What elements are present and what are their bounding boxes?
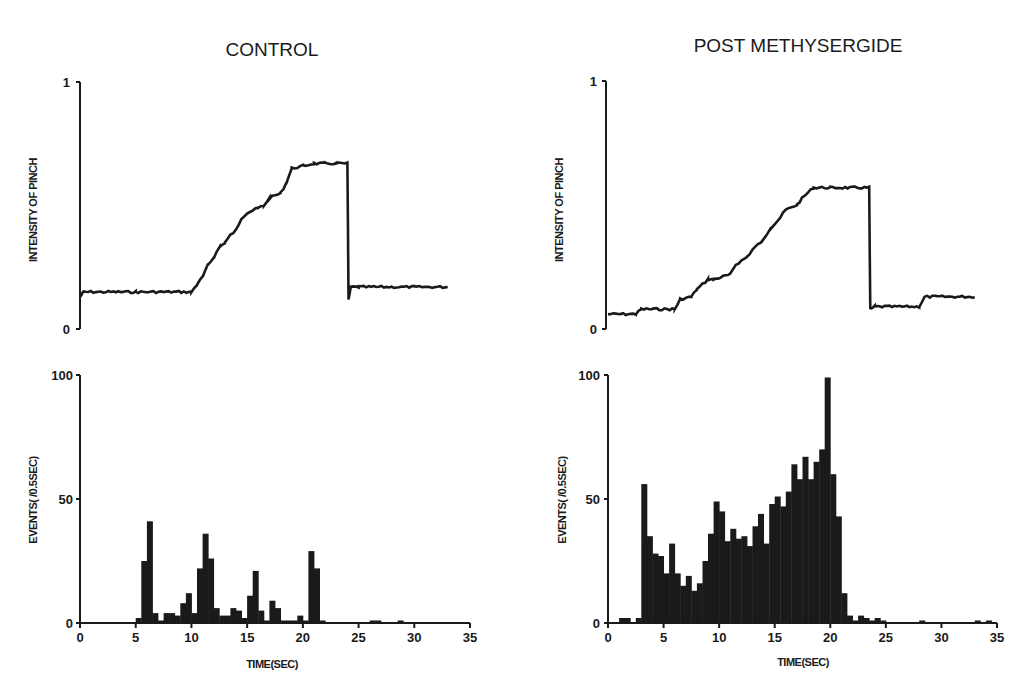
histogram-bar [164, 613, 170, 623]
histogram-bar [647, 536, 653, 623]
histogram-bar [719, 511, 725, 623]
control-hist-ytick-50: 50 [59, 492, 73, 507]
control-hist-ylabel: EVENTS( /0.5SEC) [27, 455, 39, 543]
control-trace-ytick-0: 0 [63, 322, 70, 337]
methysergide-hist-ytick-100: 100 [578, 368, 600, 383]
histogram-bar [858, 616, 864, 623]
histogram-bar [191, 613, 197, 623]
histogram-bar [219, 616, 225, 623]
methysergide-hist-ytick-50: 50 [586, 492, 600, 507]
x-tick-label: 5 [660, 630, 667, 645]
histogram-bar [758, 514, 764, 623]
histogram-bar [297, 616, 303, 623]
control-trace-ylabel: INTENSITY OF PINCH [27, 158, 39, 262]
x-tick-label: 35 [463, 630, 477, 645]
histogram-bar [830, 474, 836, 623]
x-tick-label: 25 [879, 630, 893, 645]
x-tick-label: 0 [604, 630, 611, 645]
histogram-bar [275, 608, 281, 623]
histogram-bar [764, 544, 770, 623]
methysergide-hist-xlabel: TIME(SEC) [777, 656, 830, 668]
control-trace-panel: 1 0 INTENSITY OF PINCH [27, 75, 448, 337]
histogram-bar [819, 449, 825, 623]
x-tick-label: 30 [934, 630, 948, 645]
histogram-bar [691, 591, 697, 623]
histogram-bar [197, 568, 203, 623]
x-tick-label: 10 [184, 630, 198, 645]
histogram-bar [686, 576, 692, 623]
methysergide-trace-panel: 1 0 INTENSITY OF PINCH [553, 74, 975, 337]
histogram-bar [314, 568, 320, 623]
methysergide-trace-ytick-0: 0 [590, 322, 597, 337]
x-tick-label: 15 [767, 630, 781, 645]
methysergide-hist-xticks: 05101520253035 [604, 623, 1004, 645]
methysergide-title: POST METHYSERGIDE [694, 35, 903, 56]
histogram-bar [230, 608, 236, 623]
histogram-bar [175, 616, 181, 623]
control-trace-ytick-1: 1 [63, 75, 70, 90]
x-tick-label: 0 [76, 630, 83, 645]
x-tick-label: 25 [351, 630, 365, 645]
histogram-bar [847, 616, 853, 623]
control-histogram-panel: 100 50 0 EVENTS( /0.5SEC) 05101520253035… [27, 368, 477, 670]
control-title: CONTROL [226, 39, 319, 60]
histogram-bar [775, 497, 781, 624]
histogram-bar [308, 551, 314, 623]
histogram-bar [653, 554, 659, 623]
histogram-bar [736, 539, 742, 623]
histogram-bar [803, 457, 809, 623]
histogram-bar [791, 464, 797, 623]
x-tick-label: 35 [990, 630, 1004, 645]
methysergide-pinch-trace [608, 187, 975, 315]
histogram-bar [664, 573, 670, 623]
histogram-bar [697, 583, 703, 623]
histogram-bar [741, 536, 747, 623]
control-hist-xticks: 05101520253035 [76, 623, 477, 645]
methysergide-hist-ylabel: EVENTS( /0.5SEC) [556, 455, 568, 543]
histogram-bar [714, 502, 720, 624]
histogram-bar [236, 611, 242, 623]
x-tick-label: 5 [132, 630, 139, 645]
histogram-bar [780, 506, 786, 623]
histogram-bar [753, 526, 759, 623]
methysergide-trace-ytick-1: 1 [590, 74, 597, 89]
methysergide-hist-ytick-0: 0 [593, 616, 600, 631]
control-pinch-trace [80, 163, 448, 300]
histogram-bar [730, 529, 736, 623]
control-hist-ytick-0: 0 [66, 616, 73, 631]
histogram-bar [269, 601, 275, 623]
histogram-bar [641, 484, 647, 623]
histogram-bar [258, 611, 264, 623]
histogram-bar [658, 556, 664, 623]
histogram-bar [214, 608, 220, 623]
methysergide-histogram-panel: 100 50 0 EVENTS( /0.5SEC) 05101520253035… [556, 368, 1004, 668]
histogram-bar [208, 559, 214, 624]
histogram-bar [680, 586, 686, 623]
histogram-bar [825, 378, 831, 624]
histogram-bar [808, 479, 814, 623]
control-histogram-bars [136, 521, 404, 623]
x-tick-label: 30 [407, 630, 421, 645]
histogram-bar [152, 613, 158, 623]
histogram-bar [769, 504, 775, 623]
methysergide-histogram-bars [619, 378, 992, 624]
histogram-bar [203, 534, 209, 623]
x-tick-label: 20 [296, 630, 310, 645]
histogram-bar [814, 462, 820, 623]
histogram-bar [186, 593, 192, 623]
histogram-bar [141, 561, 147, 623]
control-hist-ytick-100: 100 [51, 368, 73, 383]
histogram-bar [147, 521, 153, 623]
histogram-bar [675, 573, 681, 623]
histogram-bar [708, 534, 714, 623]
histogram-bar [225, 616, 231, 623]
histogram-bar [786, 492, 792, 623]
histogram-bar [703, 561, 709, 623]
histogram-bar [747, 546, 753, 623]
histogram-bar [797, 479, 803, 623]
x-tick-label: 10 [712, 630, 726, 645]
histogram-bar [669, 544, 675, 623]
control-hist-xlabel: TIME(SEC) [246, 658, 299, 670]
histogram-bar [247, 596, 253, 623]
histogram-bar [169, 613, 175, 623]
